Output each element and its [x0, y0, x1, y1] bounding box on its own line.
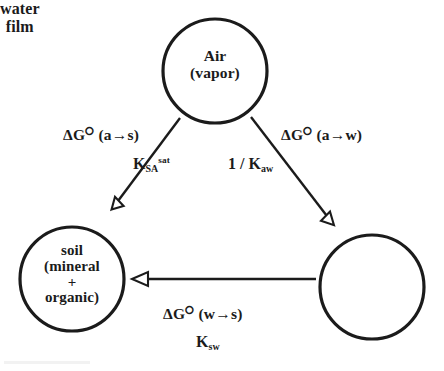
node-circle-water-film	[320, 235, 424, 339]
constant-base: K	[248, 155, 260, 172]
diagram-canvas: Air (vapor) soil (mineral + organic) wat…	[0, 0, 444, 371]
constant-superscript: sat	[158, 155, 170, 165]
constant-base: K	[196, 333, 208, 350]
delta-g-symbol: ΔG	[63, 126, 85, 143]
standard-state-icon: ⭘	[85, 125, 94, 137]
constant-subscript: sw	[208, 341, 219, 352]
standard-state-icon: ⭘	[303, 125, 312, 137]
node-label-water-film: water film	[0, 0, 40, 36]
constant-prefix: 1 /	[228, 155, 248, 172]
edge-label-water-to-soil-delta-g: ΔG⭘ (w→s)	[163, 305, 243, 323]
transition-text: (w→s)	[198, 305, 242, 322]
delta-g-symbol: ΔG	[163, 305, 185, 322]
node-label-soil: soil (mineral + organic)	[18, 243, 126, 306]
edge-water-film-to-soil	[132, 272, 316, 286]
transition-text: (a→s)	[98, 126, 139, 143]
transition-text: (a→w)	[316, 126, 362, 143]
constant-subscript: SA	[145, 163, 158, 174]
constant-subscript: aw	[261, 163, 273, 174]
constant-base: K	[133, 155, 145, 172]
standard-state-icon: ⭘	[185, 304, 194, 316]
node-label-air: Air (vapor)	[163, 47, 267, 82]
edge-label-air-to-water-constant: 1 / Kaw	[228, 155, 273, 173]
edge-label-air-to-soil-constant: KSAsat	[133, 155, 170, 173]
scan-artifact	[4, 361, 90, 364]
delta-g-symbol: ΔG	[281, 126, 303, 143]
edge-label-water-to-soil-constant: Ksw	[196, 333, 220, 351]
edge-label-air-to-soil-delta-g: ΔG⭘ (a→s)	[63, 126, 139, 144]
edge-label-air-to-water-delta-g: ΔG⭘ (a→w)	[281, 126, 362, 144]
